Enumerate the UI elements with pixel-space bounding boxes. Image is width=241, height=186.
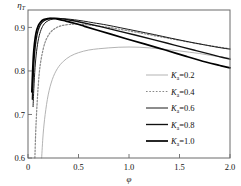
chart-figure: 00.51.01.52.0 0.60.70.80.9 ηT φ Ka=0.2Ka… [0,0,241,186]
legend-label-2: Ka=0.6 [170,103,195,114]
y-tick-label: 0.7 [14,110,25,120]
legend-label-3: Ka=0.8 [170,120,195,131]
legend-label-4: Ka=1.0 [170,136,195,147]
x-axis-label: φ [127,174,132,184]
x-tick-label: 0.5 [73,162,84,172]
line-chart: 00.51.01.52.0 0.60.70.80.9 ηT φ Ka=0.2Ka… [0,0,241,186]
x-tick-label: 2.0 [225,162,236,172]
y-axis-label: ηT [17,0,25,11]
legend-label-0: Ka=0.2 [170,70,195,81]
x-tick-label: 1.5 [174,162,185,172]
y-tick-label: 0.9 [14,23,25,33]
x-tick-label: 0 [26,162,30,172]
plot-area-background [28,10,230,158]
y-tick-label: 0.6 [14,153,25,163]
x-tick-label: 1.0 [124,162,135,172]
y-tick-label: 0.8 [14,66,25,76]
legend-label-1: Ka=0.4 [170,87,195,98]
